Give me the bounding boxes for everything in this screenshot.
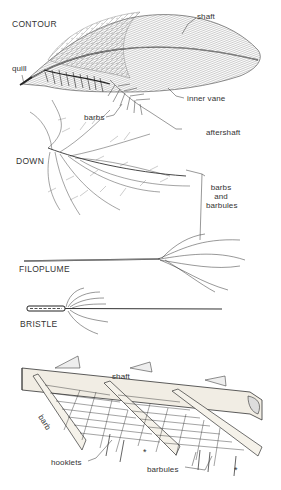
barbs-and-barbules-line-3: barbules xyxy=(206,201,236,210)
contour-inner-vane-label: inner vane xyxy=(187,94,225,103)
detail-shaft-label: shaft xyxy=(112,372,130,381)
barbs-and-barbules-line-1: barbs xyxy=(206,183,236,192)
down-title: DOWN xyxy=(16,157,44,166)
contour-shaft-label: shaft xyxy=(197,12,215,21)
contour-barbs-label: barbs xyxy=(84,113,105,122)
asterisk-marker-1: * xyxy=(143,448,147,457)
asterisk-marker-2: * xyxy=(234,466,238,475)
filoplume-drawing xyxy=(24,234,245,292)
contour-feather-drawing xyxy=(20,12,260,129)
bristle-title: BRISTLE xyxy=(20,320,58,329)
contour-title: CONTOUR xyxy=(12,20,57,29)
contour-aftershaft-label: aftershaft xyxy=(206,128,240,137)
barbs-and-barbules-label: barbs and barbules xyxy=(206,183,236,210)
barbs-and-barbules-line-2: and xyxy=(206,192,236,201)
detail-barbules-label: barbules xyxy=(147,465,179,474)
feather-diagram: CONTOUR shaft quill inner vane barbs aft… xyxy=(0,0,281,490)
detail-hooklets-label: hooklets xyxy=(51,458,82,467)
contour-quill-label: quill xyxy=(12,64,27,73)
filoplume-title: FILOPLUME xyxy=(19,265,70,274)
down-feather-drawing xyxy=(30,100,205,240)
